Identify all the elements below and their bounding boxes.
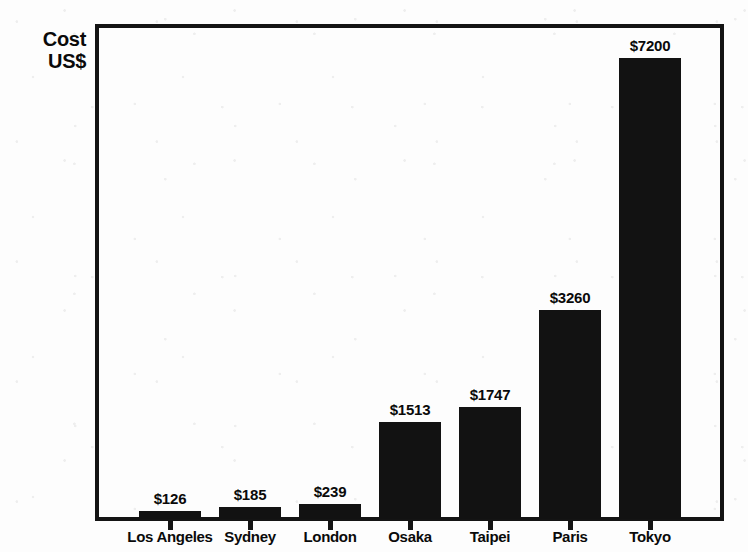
y-axis-title-line-2: US$	[0, 50, 86, 72]
bar-value-label-paris: $3260	[520, 290, 620, 306]
bar-taipei[interactable]	[459, 407, 521, 519]
bar-tokyo[interactable]	[619, 58, 681, 519]
bar-sydney[interactable]	[219, 507, 281, 519]
bar-value-label-tokyo: $7200	[600, 38, 700, 54]
x-axis-label-tokyo: Tokyo	[590, 528, 710, 545]
bar-value-label-london: $239	[280, 484, 380, 500]
bar-value-label-osaka: $1513	[360, 402, 460, 418]
bar-paris[interactable]	[539, 310, 601, 519]
bar-los-angeles[interactable]	[139, 511, 201, 519]
bar-osaka[interactable]	[379, 422, 441, 519]
bar-london[interactable]	[299, 504, 361, 519]
y-axis-title-line-1: Cost	[0, 28, 86, 50]
bar-value-label-taipei: $1747	[440, 387, 540, 403]
y-axis-title: Cost US$	[0, 28, 86, 72]
plot-area	[99, 28, 720, 519]
